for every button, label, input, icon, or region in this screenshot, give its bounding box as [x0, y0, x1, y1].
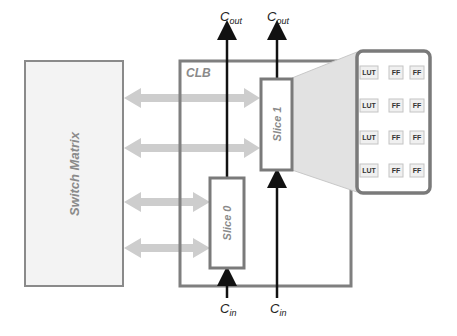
slice-detail-row: LUT FF FF [360, 66, 424, 79]
lut-cell: LUT [362, 167, 376, 174]
cout-label-left: Cout [220, 9, 242, 26]
slice-detail-row: LUT FF FF [360, 131, 424, 144]
bidirectional-arrow-icon [124, 238, 210, 258]
ff-cell: FF [392, 102, 401, 109]
slice-0: Slice 0 [210, 178, 244, 268]
zoom-projection [292, 52, 357, 192]
lut-cell: LUT [362, 102, 376, 109]
slice-detail-row: LUT FF FF [360, 164, 424, 177]
bidirectional-arrow-icon [124, 88, 260, 108]
ff-cell: FF [413, 167, 422, 174]
cin-label-right: Cin [270, 301, 286, 318]
switch-matrix-label: Switch Matrix [67, 131, 82, 216]
slice-1: Slice 1 [261, 79, 292, 170]
fpga-clb-diagram: Switch Matrix CLB Slice 0 Slice 1 Co [0, 0, 457, 336]
ff-cell: FF [392, 134, 401, 141]
lut-cell: LUT [362, 134, 376, 141]
svg-text:Cout: Cout [220, 9, 242, 26]
ff-cell: FF [413, 102, 422, 109]
ff-cell: FF [392, 167, 401, 174]
ff-cell: FF [413, 134, 422, 141]
ff-cell: FF [413, 69, 422, 76]
bidirectional-arrow-icon [124, 138, 260, 158]
lut-cell: LUT [362, 69, 376, 76]
svg-text:Cin: Cin [270, 301, 286, 318]
slice-detail-panel: LUT FF FF LUT FF FF LUT FF FF LUT [357, 51, 430, 193]
slice-1-label: Slice 1 [271, 107, 283, 142]
slice-0-label: Slice 0 [221, 205, 233, 241]
ff-cell: FF [392, 69, 401, 76]
switch-matrix: Switch Matrix [25, 61, 123, 286]
svg-text:Cin: Cin [220, 301, 236, 318]
clb-label: CLB [186, 66, 211, 80]
cout-label-right: Cout [267, 9, 289, 26]
cin-label-left: Cin [220, 301, 236, 318]
bidirectional-arrow-icon [124, 192, 210, 212]
slice-detail-row: LUT FF FF [360, 99, 424, 112]
svg-text:Cout: Cout [267, 9, 289, 26]
